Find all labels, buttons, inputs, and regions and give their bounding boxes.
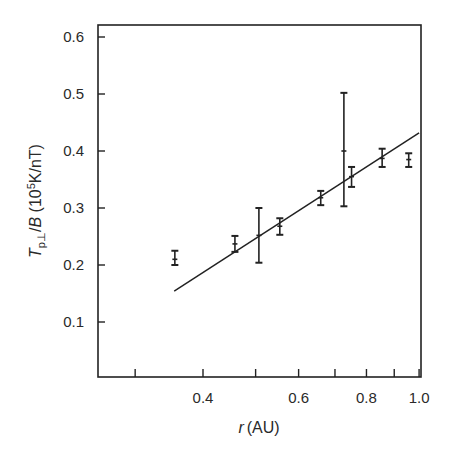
x-axis-ticks [135,369,419,377]
x-tick-label: 0.8 [356,389,377,406]
data-error-bars [171,93,412,265]
y-axis-tick-labels: 0.10.20.30.40.50.6 [63,28,84,330]
x-axis-var: r [238,419,244,436]
y-axis-var2: B [27,217,44,228]
data-point [379,149,386,167]
y-tick-label: 0.3 [63,199,84,216]
y-tick-label: 0.5 [63,85,84,102]
data-point [405,153,412,167]
data-point [348,167,355,187]
y-tick-label: 0.6 [63,28,84,45]
y-tick-label: 0.1 [63,313,84,330]
y-axis-title: Tp⊥/B (105K/nT) [25,144,47,258]
y-axis-ticks [98,37,105,322]
x-tick-label: 1.0 [409,389,430,406]
y-axis-unit-post: K/nT) [27,144,44,183]
x-axis-tick-labels: 0.40.60.81.0 [193,389,430,406]
x-axis-title: r(AU) [238,419,279,436]
x-tick-label: 0.6 [288,389,309,406]
y-tick-label: 0.4 [63,142,84,159]
data-point [255,208,262,263]
x-axis-unit: (AU) [247,419,280,436]
data-point [171,251,178,265]
x-tick-label: 0.4 [193,389,214,406]
y-axis-unit-pre: (10 [27,189,44,217]
plot-frame [98,25,421,377]
data-point [340,93,347,206]
y-tick-label: 0.2 [63,256,84,273]
y-axis-subscript: p⊥ [35,232,47,248]
data-point [317,191,324,205]
chart: 0.40.60.81.0 0.10.20.30.40.50.6 r(AU) Tp… [0,0,453,458]
